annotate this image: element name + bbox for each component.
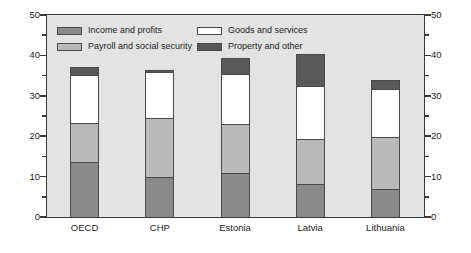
y-axis-minor-tick-right bbox=[425, 196, 429, 198]
y-axis-tick-label-left: 10 bbox=[6, 172, 40, 182]
x-axis-category-label: Latvia bbox=[270, 222, 350, 233]
y-axis-major-tick-left bbox=[40, 135, 46, 137]
bar-segment bbox=[221, 124, 250, 173]
y-axis-minor-tick-left bbox=[42, 115, 46, 117]
y-axis-minor-tick-left bbox=[42, 34, 46, 36]
y-axis-tick-label-right: 40 bbox=[431, 50, 465, 60]
x-axis-category-label: CHP bbox=[120, 222, 200, 233]
y-axis-tick-label-left: 30 bbox=[6, 91, 40, 101]
legend-swatch-payroll-and-social-security bbox=[57, 43, 82, 51]
x-axis-category-label: OECD bbox=[45, 222, 125, 233]
bar-stack bbox=[296, 54, 325, 217]
bar-segment bbox=[70, 67, 99, 75]
legend-row: Income and profits Goods and services bbox=[57, 24, 347, 37]
legend-item-payroll-and-social-security: Payroll and social security bbox=[57, 42, 197, 51]
bar-segment bbox=[371, 89, 400, 137]
bar-segment bbox=[70, 75, 99, 123]
bar-group bbox=[371, 15, 400, 217]
legend-label: Goods and services bbox=[228, 26, 308, 35]
y-axis-tick-label-right: 50 bbox=[431, 10, 465, 20]
y-axis-tick-label-left: 40 bbox=[6, 50, 40, 60]
legend-swatch-property-and-other bbox=[197, 43, 222, 51]
bar-segment bbox=[145, 118, 174, 177]
chart-legend: Income and profits Goods and services Pa… bbox=[57, 24, 347, 56]
legend-row: Payroll and social security Property and… bbox=[57, 40, 347, 53]
y-axis-minor-tick-left bbox=[42, 156, 46, 158]
y-axis-minor-tick-right bbox=[425, 156, 429, 158]
bar-segment bbox=[296, 184, 325, 217]
bar-segment bbox=[221, 58, 250, 74]
bar-stack bbox=[70, 67, 99, 217]
y-axis-tick-label-right: 20 bbox=[431, 131, 465, 141]
y-axis-tick-label-right: 10 bbox=[431, 172, 465, 182]
bar-segment bbox=[371, 80, 400, 88]
y-axis-minor-tick-right bbox=[425, 34, 429, 36]
bar-segment bbox=[221, 74, 250, 124]
y-axis-major-tick-left bbox=[40, 55, 46, 57]
y-axis-major-tick-left bbox=[40, 95, 46, 97]
y-axis-tick-label-left: 0 bbox=[6, 212, 40, 222]
y-axis-tick-label-left: 50 bbox=[6, 10, 40, 20]
x-axis-category-label: Estonia bbox=[195, 222, 275, 233]
legend-item-property-and-other: Property and other bbox=[197, 42, 303, 51]
y-axis-minor-tick-left bbox=[42, 75, 46, 77]
bar-segment bbox=[221, 173, 250, 217]
bar-segment bbox=[296, 54, 325, 86]
y-axis-minor-tick-right bbox=[425, 75, 429, 77]
legend-label: Property and other bbox=[228, 42, 303, 51]
y-axis-minor-tick-left bbox=[42, 196, 46, 198]
x-axis-category-label: Lithuania bbox=[345, 222, 425, 233]
y-axis-tick-label-right: 30 bbox=[431, 91, 465, 101]
bar-segment bbox=[371, 189, 400, 217]
legend-item-income-and-profits: Income and profits bbox=[57, 26, 197, 35]
y-axis-tick-label-right: 0 bbox=[431, 212, 465, 222]
bar-segment bbox=[296, 86, 325, 139]
legend-swatch-income-and-profits bbox=[57, 27, 82, 35]
stacked-bar-chart: 0010102020303040405050 OECDCHPEstoniaLat… bbox=[0, 0, 471, 253]
bar-segment bbox=[145, 72, 174, 118]
y-axis-major-tick-left bbox=[40, 14, 46, 16]
y-axis-major-tick-left bbox=[40, 216, 46, 218]
legend-swatch-goods-and-services bbox=[197, 27, 222, 35]
bar-stack bbox=[371, 80, 400, 217]
bar-stack bbox=[145, 70, 174, 217]
bar-segment bbox=[70, 162, 99, 217]
legend-label: Payroll and social security bbox=[88, 42, 192, 51]
y-axis-minor-tick-right bbox=[425, 115, 429, 117]
y-axis-tick-label-left: 20 bbox=[6, 131, 40, 141]
bar-segment bbox=[145, 177, 174, 217]
bar-segment bbox=[371, 137, 400, 189]
bar-segment bbox=[70, 123, 99, 162]
legend-label: Income and profits bbox=[88, 26, 162, 35]
bar-segment bbox=[296, 139, 325, 184]
y-axis-major-tick-left bbox=[40, 176, 46, 178]
bar-stack bbox=[221, 58, 250, 217]
legend-item-goods-and-services: Goods and services bbox=[197, 26, 308, 35]
